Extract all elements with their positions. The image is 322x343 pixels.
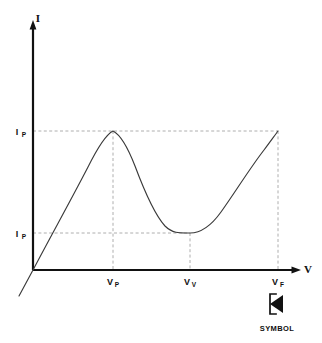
- x-tick-peak-voltage-label: V: [107, 277, 113, 287]
- x-axis-label: V: [304, 263, 312, 275]
- tunnel-diode-characteristic-figure: I V I P I P V P V V V F SYMBOL: [0, 0, 322, 343]
- x-tick-valley-voltage: V V: [184, 277, 197, 288]
- y-tick-valley-current: I P: [16, 229, 27, 240]
- y-tick-valley-current-label: I: [16, 229, 19, 239]
- y-tick-peak-current-label: I: [16, 127, 19, 137]
- x-tick-peak-voltage: V P: [107, 277, 120, 288]
- tunnel-diode-symbol-icon: [270, 294, 283, 314]
- x-axis-arrowhead: [292, 267, 302, 274]
- symbol-caption: SYMBOL: [260, 324, 295, 333]
- x-tick-peak-voltage-subscript: P: [115, 281, 120, 288]
- x-tick-forward-voltage: V F: [272, 277, 284, 288]
- y-tick-peak-current: I P: [16, 127, 27, 138]
- x-tick-forward-voltage-label: V: [272, 277, 278, 287]
- x-tick-forward-voltage-subscript: F: [280, 281, 284, 288]
- tunnel-diode-anode-triangle: [270, 295, 283, 313]
- iv-characteristic-curve: [19, 131, 278, 296]
- x-tick-valley-voltage-subscript: V: [192, 281, 197, 288]
- y-tick-valley-current-subscript: P: [22, 233, 27, 240]
- y-axis-label: I: [36, 12, 40, 24]
- x-tick-valley-voltage-label: V: [184, 277, 190, 287]
- y-tick-peak-current-subscript: P: [22, 131, 27, 138]
